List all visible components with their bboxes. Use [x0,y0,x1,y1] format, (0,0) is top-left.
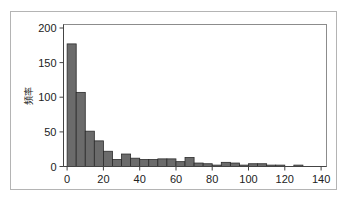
y-axis-title-text: 頻率 [23,87,34,105]
x-axis: 020406080100120140 [64,167,331,185]
histogram-bar [176,162,185,167]
histogram-bar [76,92,85,166]
histogram-bar [140,160,149,167]
y-axis: 050100150200 [38,22,63,173]
x-tick-label: 0 [64,173,70,185]
x-tick-label: 40 [134,173,146,185]
x-tick-label: 120 [276,173,294,185]
x-tick-label: 100 [239,173,257,185]
histogram-bar [167,159,176,167]
histogram-chart: 050100150200 020406080100120140 頻率 [0,0,347,201]
x-tick-label: 140 [312,173,330,185]
histogram-bar [185,158,194,167]
x-tick-label: 20 [97,173,109,185]
histogram-bar [67,44,76,167]
histogram-bar [230,163,239,166]
histogram-bar [149,160,158,167]
x-tick-label: 80 [206,173,218,185]
y-axis-ticks: 050100150200 [38,22,63,173]
y-tick-label: 50 [44,126,56,138]
histogram-bar [221,162,230,166]
figure-canvas: 050100150200 020406080100120140 頻率 [0,0,347,201]
histogram-bar [122,154,131,166]
y-axis-title: 頻率 [23,87,34,105]
histogram-bar [158,159,167,167]
histogram-bar [194,163,203,166]
x-axis-ticks: 020406080100120140 [64,167,330,185]
y-tick-label: 100 [38,91,56,103]
histogram-bar [131,158,140,166]
histogram-bar [103,151,112,166]
histogram-bar [94,141,103,167]
y-tick-label: 0 [50,161,56,173]
histogram-bar [112,160,121,167]
histogram-bar [85,131,94,166]
y-tick-label: 200 [38,22,56,34]
y-tick-label: 150 [38,57,56,69]
x-tick-label: 60 [170,173,182,185]
